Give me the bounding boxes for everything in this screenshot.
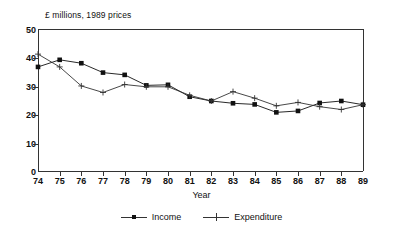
x-axis-tick-label: 83 [228, 176, 238, 186]
x-axis-tick-label: 77 [98, 176, 108, 186]
x-axis-tick [146, 172, 147, 176]
x-axis-tick [341, 172, 342, 176]
x-axis-tick-label: 88 [336, 176, 346, 186]
income-marker-icon [121, 212, 147, 222]
x-axis-title: Year [0, 190, 403, 200]
x-axis-tick [276, 172, 277, 176]
x-axis-tick-label: 80 [163, 176, 173, 186]
x-axis-tick [60, 172, 61, 176]
x-axis-tick [298, 172, 299, 176]
y-axis-tick [33, 58, 38, 59]
x-axis-tick [233, 172, 234, 176]
x-axis-tick-label: 89 [358, 176, 368, 186]
legend-label-expenditure: Expenditure [234, 212, 282, 222]
x-axis-tick [211, 172, 212, 176]
chart-legend: Income Expenditure [0, 212, 403, 222]
x-axis-tick [255, 172, 256, 176]
x-axis-tick-label: 85 [271, 176, 281, 186]
x-axis-tick-label: 87 [315, 176, 325, 186]
legend-item-income: Income [121, 212, 182, 222]
x-axis-tick-label: 81 [185, 176, 195, 186]
x-axis-tick-label: 78 [120, 176, 130, 186]
line-chart: £ millions, 1989 prices 01020304050 7475… [0, 0, 403, 245]
x-axis-tick [190, 172, 191, 176]
x-axis-tick [125, 172, 126, 176]
y-axis-tick [33, 115, 38, 116]
x-axis-tick-label: 84 [250, 176, 260, 186]
x-axis-tick-label: 76 [76, 176, 86, 186]
x-axis-tick [168, 172, 169, 176]
plot-area [38, 30, 363, 172]
x-axis-tick [103, 172, 104, 176]
y-axis-tick [33, 144, 38, 145]
plot-top-border [38, 29, 363, 30]
x-axis-tick-label: 82 [206, 176, 216, 186]
plot-right-border [363, 29, 364, 171]
x-axis-tick [81, 172, 82, 176]
x-axis-tick-label: 86 [293, 176, 303, 186]
y-axis-tick [33, 87, 38, 88]
expenditure-marker-icon [203, 212, 229, 222]
legend-label-income: Income [152, 212, 182, 222]
x-axis-tick-label: 75 [55, 176, 65, 186]
x-axis-tick-label: 79 [141, 176, 151, 186]
x-axis-tick [320, 172, 321, 176]
chart-title: £ millions, 1989 prices [45, 10, 131, 20]
x-axis-tick-label: 74 [33, 176, 43, 186]
y-axis-tick-label: 50 [12, 25, 36, 35]
legend-item-expenditure: Expenditure [203, 212, 282, 222]
